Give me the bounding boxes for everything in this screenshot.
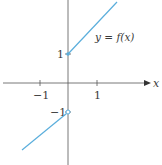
y-tick-label-neg1: −1 [50,106,66,119]
open-point-icon [66,110,70,114]
piecewise-function-graph: x −1 1 1 −1 y = f(x) [0,0,162,165]
closed-point-icon [66,52,70,56]
x-tick-label-1: 1 [94,89,101,102]
series-lower-line [22,114,67,151]
y-tick-label-1: 1 [57,48,64,61]
x-tick-label-neg1: −1 [33,89,49,102]
function-label: y = f(x) [94,31,134,43]
series-upper-line [68,2,117,54]
x-axis-label: x [153,77,160,90]
x-axis-arrow-icon [144,80,151,86]
